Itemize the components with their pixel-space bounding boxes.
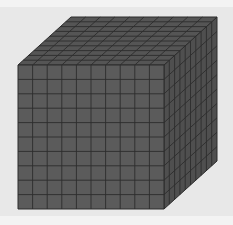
cube-front-face [18,65,164,209]
thousand-cube-diagram [0,0,233,225]
